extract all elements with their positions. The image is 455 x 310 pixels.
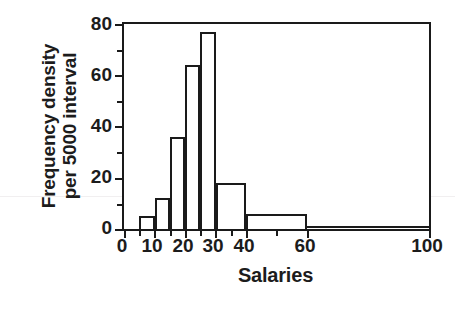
histogram-bar-20-25 <box>185 65 200 229</box>
histogram-figure: Frequency density per 5000 interval 80 6… <box>0 0 455 310</box>
y-tick-30 <box>117 152 124 154</box>
y-tick-label-0: 0 <box>72 218 112 237</box>
y-tick-label-20: 20 <box>72 167 112 186</box>
histogram-bar-25-30 <box>200 32 215 229</box>
x-tick-label-100: 100 <box>411 236 443 255</box>
plot-area <box>122 22 431 231</box>
y-tick-50 <box>117 101 124 103</box>
histogram-bar-10-15 <box>155 198 170 229</box>
y-tick-label-60: 60 <box>72 65 112 84</box>
histogram-bar-15-20 <box>170 137 185 229</box>
x-tick-label-40: 40 <box>233 236 254 255</box>
y-tick-0 <box>115 229 124 231</box>
y-tick-label-80: 80 <box>72 14 112 33</box>
x-tick-label-10: 10 <box>141 236 162 255</box>
histogram-bar-5-10 <box>139 216 154 229</box>
plot-inner <box>124 24 429 229</box>
y-tick-60 <box>115 75 124 77</box>
histogram-bar-40-60 <box>246 214 307 229</box>
x-tick-label-60: 60 <box>294 236 315 255</box>
y-axis-tick-labels: 80 60 40 20 0 <box>72 0 112 260</box>
y-tick-20 <box>115 178 124 180</box>
x-tick-50 <box>276 229 278 236</box>
histogram-bar-60-100 <box>307 226 429 229</box>
x-tick-label-30: 30 <box>202 236 223 255</box>
y-axis-title-line-1: Frequency density <box>38 6 59 246</box>
x-tick-label-20: 20 <box>172 236 193 255</box>
y-tick-40 <box>115 126 124 128</box>
x-axis-title: Salaries <box>122 264 429 287</box>
y-tick-label-40: 40 <box>72 116 112 135</box>
y-tick-10 <box>117 204 124 206</box>
x-tick-label-0: 0 <box>117 236 128 255</box>
histogram-bar-30-40 <box>216 183 247 229</box>
y-tick-80 <box>115 24 124 26</box>
y-tick-70 <box>117 50 124 52</box>
